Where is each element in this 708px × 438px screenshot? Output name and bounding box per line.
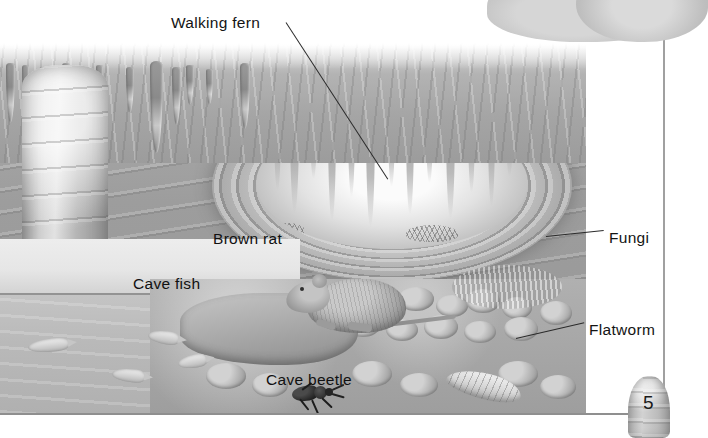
- ceiling-fade: [0, 43, 586, 69]
- fungi-patch: [452, 265, 562, 309]
- label-brown-rat: Brown rat: [213, 230, 282, 248]
- vertical-rule: [663, 34, 665, 406]
- label-flatworm: Flatworm: [589, 321, 655, 339]
- label-cave-beetle: Cave beetle: [266, 371, 352, 389]
- rat-eye: [300, 287, 304, 291]
- page-number: 5: [643, 392, 654, 414]
- label-fungi: Fungi: [609, 229, 649, 247]
- walking-fern-clump-right: [406, 225, 458, 242]
- bottom-rule: [0, 413, 655, 415]
- rat-ear: [312, 274, 327, 288]
- label-cave-fish: Cave fish: [133, 275, 200, 293]
- label-walking-fern: Walking fern: [171, 14, 260, 32]
- cave-illustration: Brown rat Cave fish Cave beetle: [0, 43, 586, 413]
- brown-rat: [286, 265, 412, 339]
